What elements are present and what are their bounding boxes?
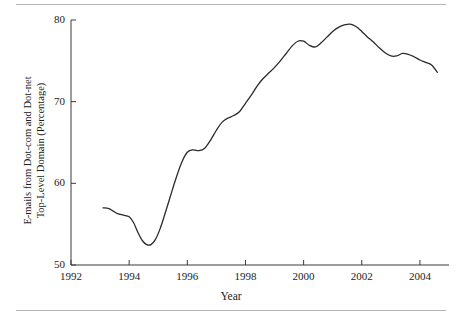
x-tick-label: 1996	[167, 271, 207, 282]
y-axis-title-line1: E-mails from Dot-com and Dot-net	[22, 31, 35, 271]
x-tick-label: 1994	[109, 271, 149, 282]
y-axis-title: E-mails from Dot-com and Dot-net Top-Lev…	[22, 31, 47, 271]
x-axis-title: Year	[0, 290, 462, 302]
x-tick-label: 1992	[51, 271, 91, 282]
x-axis-ticks	[71, 260, 420, 265]
x-tick-label: 2004	[400, 271, 440, 282]
data-series-line	[103, 24, 437, 245]
y-tick-label: 80	[35, 14, 65, 25]
y-axis-ticks	[71, 20, 76, 265]
figure-container: 80 70 60 50 1992 1994 1996 1998 2000 200…	[0, 0, 462, 322]
x-tick-label: 2000	[284, 271, 324, 282]
y-axis-title-line2: Top-Level Domain (Percentage)	[34, 31, 47, 271]
x-tick-label: 2002	[342, 271, 382, 282]
x-tick-label: 1998	[225, 271, 265, 282]
